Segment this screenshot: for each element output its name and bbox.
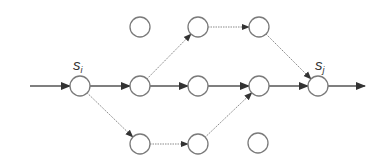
flow-graph [0,0,388,167]
label-sj-main: s [315,56,323,73]
edge-m1-t1 [147,34,191,79]
node-si [70,76,90,96]
node-t1 [188,17,208,37]
node-t0 [130,17,150,37]
node-b3 [248,133,268,153]
label-si-main: s [73,56,81,73]
edge-b2-m3 [205,93,252,137]
node-label-sj: sj [315,56,325,75]
label-si-sub: i [81,65,83,75]
label-sj-sub: j [323,65,325,75]
edge-si-b1 [87,93,133,137]
node-sj [308,76,328,96]
node-b2 [188,134,208,154]
node-t2 [249,17,269,37]
node-label-si: si [73,56,83,75]
node-m3 [249,76,269,96]
node-m1 [130,76,150,96]
node-m2 [188,76,208,96]
node-b1 [130,134,150,154]
edge-t2-sj [266,34,311,79]
